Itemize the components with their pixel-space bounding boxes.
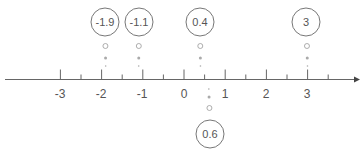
thought-dot xyxy=(103,44,108,49)
point-label: -1.1 xyxy=(130,16,149,28)
thought-dot xyxy=(207,106,212,111)
number-line-diagram: -3 -2 -1 0 1 2 3 -1.9 -1.1 0.4 3 0.6 xyxy=(0,0,362,161)
thought-dot xyxy=(136,44,141,49)
point-label: 0.6 xyxy=(202,128,217,140)
thought-dot xyxy=(199,57,202,60)
thought-dot xyxy=(198,44,203,49)
tick-label: 2 xyxy=(263,87,270,101)
thought-dot xyxy=(307,65,309,67)
thought-dot xyxy=(208,96,211,99)
tick-label: -2 xyxy=(96,87,107,101)
tick-label: 1 xyxy=(222,87,229,101)
point-label: 0.4 xyxy=(192,16,207,28)
thought-dot xyxy=(104,57,107,60)
thought-dot xyxy=(200,65,202,67)
point-label: -1.9 xyxy=(96,16,115,28)
point-label: 3 xyxy=(303,16,309,28)
thought-dot xyxy=(138,65,140,67)
tick-label: -3 xyxy=(55,87,66,101)
axis-arrow-icon xyxy=(354,77,360,83)
thought-dot xyxy=(208,88,210,90)
tick-label: 0 xyxy=(181,87,188,101)
thought-dot xyxy=(105,65,107,67)
tick-label: -1 xyxy=(137,87,148,101)
thought-dot xyxy=(137,57,140,60)
thought-dot xyxy=(306,57,309,60)
tick-label: 3 xyxy=(304,87,311,101)
thought-dot xyxy=(304,44,309,49)
